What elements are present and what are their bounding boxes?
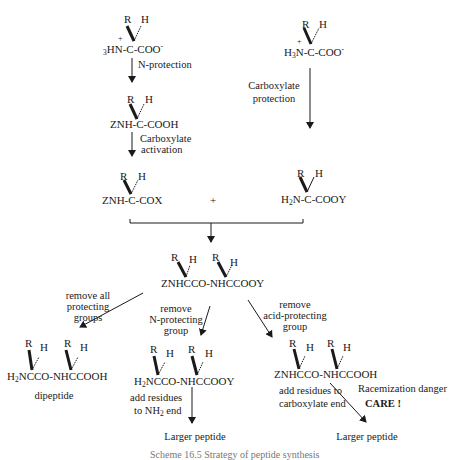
- molecule-zwitterion-amino-acid-right: H3N-C-COO-: [284, 44, 344, 62]
- molecule-activated-amino-acid: ZNH-C-COX: [102, 194, 163, 206]
- molecule-protected-dipeptide: ZNHCCO-NHCCOOY: [161, 277, 264, 289]
- h-atom-label: H: [205, 347, 213, 359]
- step-add-cooh-line2: carboxylate end: [279, 398, 346, 410]
- h-atom-label: H: [189, 253, 197, 265]
- h-atom-label: H: [306, 341, 314, 353]
- r-group-label: R: [127, 93, 134, 105]
- product-larger-peptide-right: Larger peptide: [327, 431, 407, 443]
- molecule-n-protected-amino-acid: ZNH-C-COOH: [110, 118, 178, 130]
- step-remove-acid-line3: group: [260, 321, 330, 333]
- step-add-nh2-line1: add residues: [130, 392, 182, 404]
- r-group-label: R: [327, 337, 334, 349]
- h-atom-label: H: [166, 347, 174, 359]
- h-atom-label: H: [145, 93, 153, 105]
- plus-sign: +: [210, 194, 216, 206]
- step-remove-all-line3: groups: [58, 312, 118, 324]
- r-group-label: R: [297, 167, 304, 179]
- step-carboxylate-protection-line1: Carboxylate: [244, 80, 304, 92]
- h-atom-label: H: [343, 341, 351, 353]
- step-add-cooh-line1: add residues to: [279, 385, 342, 397]
- h-atom-label: H: [138, 170, 146, 182]
- figure-caption: Scheme 16.5 Strategy of peptide synthesi…: [150, 449, 319, 460]
- r-group-label: R: [25, 337, 32, 349]
- r-group-label: R: [302, 18, 309, 30]
- r-group-label: R: [171, 251, 178, 263]
- r-group-label: R: [289, 337, 296, 349]
- dipeptide-label: dipeptide: [24, 390, 84, 402]
- step-n-protection: N-protection: [138, 59, 192, 71]
- molecule-c-deprotected-dipeptide: ZNHCCO-NHCCOOH: [274, 368, 377, 380]
- h-atom-label: H: [80, 341, 88, 353]
- molecule-free-dipeptide: H2NCCO-NHCCOOH: [7, 370, 107, 386]
- care-warning: CARE !: [365, 398, 401, 410]
- r-group-label: R: [150, 343, 157, 355]
- r-group-label: R: [120, 170, 127, 182]
- molecule-c-protected-amino-acid: H2N-C-COOY: [281, 193, 346, 209]
- molecule-zwitterion-amino-acid-left: 3HN-C-COO-: [103, 41, 163, 59]
- r-group-label: R: [64, 337, 71, 349]
- r-group-label: R: [124, 13, 131, 25]
- racemization-warning: Racemization danger: [358, 383, 447, 395]
- r-group-label: R: [188, 343, 195, 355]
- h-atom-label: H: [319, 18, 327, 30]
- h-atom-label: H: [40, 341, 48, 353]
- step-carboxylate-activation-line2: activation: [141, 144, 182, 156]
- h-atom-label: H: [230, 256, 238, 268]
- molecule-n-deprotected-dipeptide: H2NCCO-NHCCOOY: [134, 375, 234, 391]
- step-carboxylate-protection-line2: protection: [244, 93, 304, 105]
- h-atom-label: H: [141, 13, 149, 25]
- product-larger-peptide-left: Larger peptide: [155, 431, 235, 443]
- h-atom-label: H: [315, 167, 323, 179]
- step-add-nh2-line2: to NH2 end: [134, 405, 182, 420]
- r-group-label: R: [212, 251, 219, 263]
- step-remove-n-line3: group: [144, 325, 208, 337]
